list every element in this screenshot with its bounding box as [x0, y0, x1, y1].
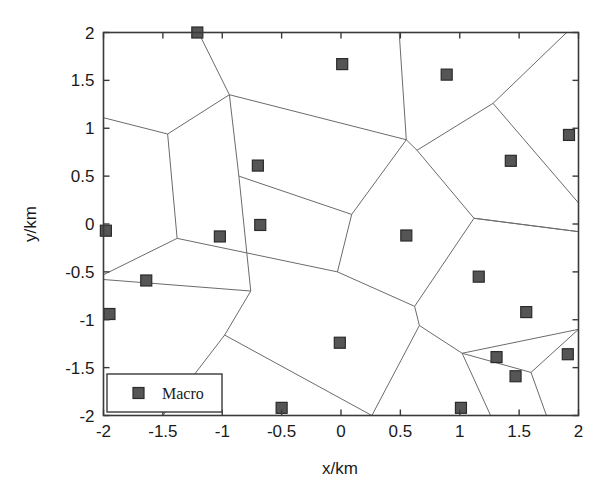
- macro-marker: [214, 231, 225, 242]
- voronoi-edge: [229, 95, 406, 140]
- x-tick-label: 2: [574, 422, 583, 441]
- macro-marker: [455, 402, 466, 413]
- x-tick-label: 0.5: [389, 422, 413, 441]
- voronoi-edge: [239, 176, 352, 214]
- voronoi-edge: [225, 335, 372, 415]
- voronoi-edge: [239, 176, 246, 245]
- y-tick-label: 2: [85, 24, 94, 43]
- legend-label-macro: Macro: [162, 385, 204, 402]
- macro-marker: [401, 230, 412, 241]
- voronoi-edge: [246, 245, 251, 291]
- y-tick-label: 1: [85, 119, 94, 138]
- voronoi-edge: [168, 134, 178, 238]
- voronoi-edge: [104, 280, 251, 291]
- y-tick-label: -1.5: [65, 359, 94, 378]
- macro-marker: [510, 371, 521, 382]
- voronoi-edge: [417, 150, 474, 218]
- y-tick-label: -0.5: [65, 263, 94, 282]
- voronoi-edge: [531, 372, 546, 415]
- macro-marker: [104, 309, 115, 320]
- voronoi-edge: [462, 329, 578, 353]
- macro-marker: [562, 349, 573, 360]
- voronoi-edge: [225, 291, 251, 335]
- macro-marker: [505, 155, 516, 166]
- macro-marker: [337, 59, 348, 70]
- y-axis-title: y/km: [21, 206, 40, 242]
- macro-markers-layer: [100, 27, 574, 413]
- voronoi-edge: [104, 118, 168, 134]
- legend-box[interactable]: Macro: [107, 374, 222, 412]
- voronoi-scatter-plot: -2-1.5-1-0.500.511.52-2-1.5-1-0.500.511.…: [0, 0, 611, 486]
- legend-marker-macro: [133, 388, 144, 399]
- x-tick-label: 1: [455, 422, 464, 441]
- voronoi-edge: [406, 140, 417, 151]
- voronoi-edge: [199, 33, 230, 95]
- macro-marker: [252, 160, 263, 171]
- voronoi-edge: [493, 33, 567, 104]
- voronoi-edge: [229, 95, 239, 176]
- voronoi-edge: [474, 218, 579, 231]
- x-tick-label: -1.5: [148, 422, 177, 441]
- x-tick-label: -2: [96, 422, 111, 441]
- voronoi-edge: [337, 272, 414, 306]
- y-tick-label: 0: [85, 215, 94, 234]
- x-tick-label: 1.5: [507, 422, 531, 441]
- voronoi-edge: [104, 238, 178, 274]
- macro-marker: [564, 129, 575, 140]
- macro-marker: [334, 337, 345, 348]
- voronoi-edge: [493, 103, 579, 203]
- x-tick-label: -1: [215, 422, 230, 441]
- figure-canvas: -2-1.5-1-0.500.511.52-2-1.5-1-0.500.511.…: [0, 0, 611, 486]
- macro-marker: [521, 307, 532, 318]
- macro-marker: [100, 225, 111, 236]
- macro-marker: [441, 69, 452, 80]
- x-tick-label: 0: [336, 422, 345, 441]
- y-tick-label: -2: [79, 407, 94, 426]
- voronoi-edge: [419, 326, 462, 354]
- voronoi-edge: [337, 214, 351, 271]
- voronoi-edge: [372, 326, 420, 416]
- macro-marker: [141, 275, 152, 286]
- voronoi-edge: [417, 103, 493, 150]
- x-tick-label: -0.5: [267, 422, 296, 441]
- voronoi-edge: [399, 33, 406, 140]
- y-tick-label: 0.5: [71, 167, 95, 186]
- voronoi-edge: [352, 140, 407, 215]
- macro-marker: [491, 352, 502, 363]
- y-tick-label: 1.5: [71, 71, 95, 90]
- voronoi-edge: [177, 238, 337, 272]
- voronoi-edge: [415, 218, 474, 306]
- voronoi-edge: [415, 306, 420, 325]
- voronoi-edges-layer: [104, 33, 579, 416]
- voronoi-edge: [168, 95, 230, 134]
- macro-marker: [255, 219, 266, 230]
- macro-marker: [473, 271, 484, 282]
- x-axis-title: x/km: [322, 459, 358, 478]
- y-tick-label: -1: [79, 311, 94, 330]
